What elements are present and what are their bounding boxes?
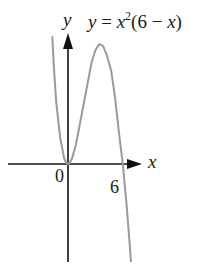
- equation-close: ): [176, 11, 182, 32]
- equation-var: x: [167, 11, 175, 32]
- x-axis-arrow-icon: [127, 159, 142, 169]
- graph-canvas: [0, 0, 198, 266]
- equation-exponent: 2: [125, 9, 131, 23]
- equation-open: (6 −: [131, 11, 167, 32]
- cubic-curve: [52, 36, 131, 262]
- y-axis-arrow-icon: [63, 33, 73, 49]
- x-axis-label: x: [148, 152, 156, 171]
- y-axis-label: y: [63, 10, 71, 29]
- equation-base: x: [117, 11, 125, 32]
- equation-equals: =: [96, 11, 116, 32]
- root-tick-label: 6: [110, 178, 119, 196]
- origin-label: 0: [55, 167, 64, 185]
- function-equation: y = x2(6 − x): [88, 12, 182, 31]
